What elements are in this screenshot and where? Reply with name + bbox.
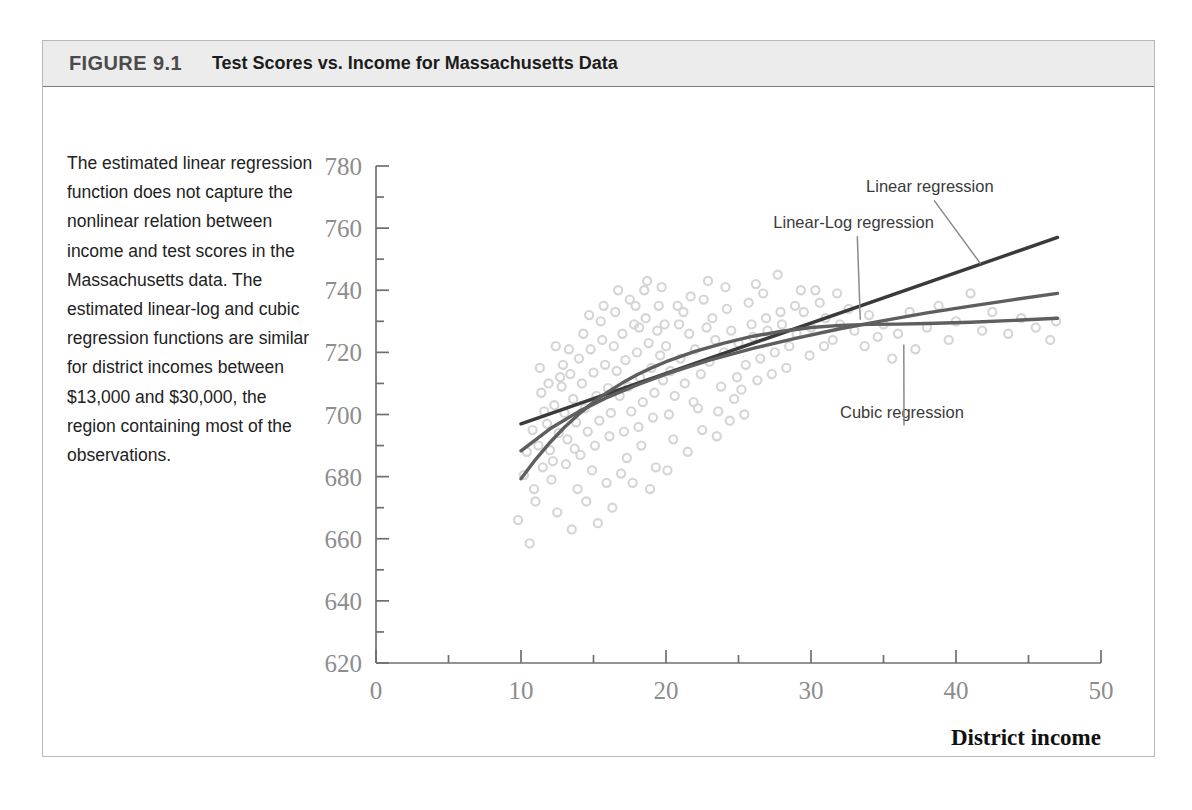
scatter-point — [563, 435, 571, 443]
scatter-point — [753, 376, 761, 384]
scatter-point — [685, 330, 693, 338]
annotation-label: Cubic regression — [840, 403, 964, 421]
scatter-point — [698, 426, 706, 434]
scatter-point — [559, 361, 567, 369]
x-tick-label: 50 — [1089, 677, 1114, 704]
scatter-point — [894, 330, 902, 338]
scatter-point — [733, 373, 741, 381]
scatter-point — [534, 441, 542, 449]
scatter-point — [537, 389, 545, 397]
scatter-point — [634, 423, 642, 431]
scatter-point — [611, 308, 619, 316]
scatter-point — [531, 497, 539, 505]
scatter-point — [631, 302, 639, 310]
figure-header: FIGURE 9.1 Test Scores vs. Income for Ma… — [43, 41, 1154, 87]
scatter-point — [833, 289, 841, 297]
scatter-point — [674, 302, 682, 310]
scatter-point — [865, 311, 873, 319]
scatter-point — [565, 345, 573, 353]
scatter-point — [568, 525, 576, 533]
scatter-point — [811, 286, 819, 294]
scatter-point — [708, 314, 716, 322]
scatter-point — [662, 342, 670, 350]
scatter-point — [805, 351, 813, 359]
scatter-point — [829, 336, 837, 344]
scatter-point — [582, 497, 590, 505]
scatter-point — [653, 327, 661, 335]
scatter-point — [747, 320, 755, 328]
y-tick-label: 660 — [325, 526, 363, 553]
scatter-point — [610, 342, 618, 350]
scatter-point — [694, 404, 702, 412]
scatter-point — [600, 302, 608, 310]
y-tick-label: 620 — [325, 650, 363, 677]
annotation-label: Linear regression — [866, 177, 994, 195]
scatter-point — [544, 379, 552, 387]
scatter-point — [1046, 336, 1054, 344]
scatter-point — [595, 417, 603, 425]
scatter-point — [656, 351, 664, 359]
scatter-point — [776, 308, 784, 316]
x-tick-label: 40 — [944, 677, 969, 704]
scatter-point — [652, 463, 660, 471]
scatter-point — [665, 410, 673, 418]
scatter-point — [598, 336, 606, 344]
scatter-point — [578, 379, 586, 387]
scatter-point — [745, 299, 753, 307]
scatter-point — [640, 286, 648, 294]
scatter-point — [681, 379, 689, 387]
scatter-point — [660, 320, 668, 328]
scatter-point — [737, 386, 745, 394]
scatter-point — [697, 370, 705, 378]
scatter-point — [623, 454, 631, 462]
scatter-point — [650, 389, 658, 397]
scatter-point — [711, 336, 719, 344]
scatter-point — [727, 327, 735, 335]
scatter-point — [759, 289, 767, 297]
scatter-point — [643, 277, 651, 285]
scatter-point — [911, 345, 919, 353]
scatter-point — [935, 302, 943, 310]
scatter-point — [762, 314, 770, 322]
y-tick-label: 780 — [325, 153, 363, 180]
scatter-point — [966, 289, 974, 297]
y-tick-label: 760 — [325, 215, 363, 242]
scatter-point — [639, 398, 647, 406]
scatter-point — [552, 342, 560, 350]
scatter-point — [627, 407, 635, 415]
scatter-point — [713, 432, 721, 440]
scatter-point — [1032, 323, 1040, 331]
scatter-point — [820, 342, 828, 350]
scatter-point — [566, 370, 574, 378]
scatter-point — [549, 457, 557, 465]
scatter-point — [756, 354, 764, 362]
scatter-point — [601, 361, 609, 369]
scatter-point — [575, 354, 583, 362]
scatter-point — [608, 504, 616, 512]
scatter-point — [637, 441, 645, 449]
scatter-point — [740, 410, 748, 418]
scatter-point — [618, 330, 626, 338]
scatter-point — [658, 283, 666, 291]
scatter-point — [605, 432, 613, 440]
scatter-point — [816, 299, 824, 307]
scatter-point — [646, 485, 654, 493]
scatter-point — [614, 286, 622, 294]
scatter-point — [704, 277, 712, 285]
scatter-point — [791, 302, 799, 310]
scatter-point — [703, 323, 711, 331]
scatter-point — [874, 333, 882, 341]
scatter-point — [562, 460, 570, 468]
scatter-point — [988, 308, 996, 316]
scatter-point — [782, 364, 790, 372]
scatter-point — [587, 345, 595, 353]
scatter-point — [774, 271, 782, 279]
scatter-point — [642, 314, 650, 322]
y-tick-label: 680 — [325, 464, 363, 491]
y-tick-label: 640 — [325, 588, 363, 615]
x-tick-label: 30 — [799, 677, 824, 704]
scatter-point — [607, 409, 615, 417]
scatter-point — [649, 414, 657, 422]
figure-screenshot: FIGURE 9.1 Test Scores vs. Income for Ma… — [0, 0, 1192, 810]
annotation-leader-line — [934, 200, 981, 263]
